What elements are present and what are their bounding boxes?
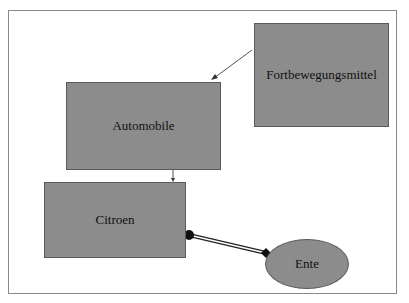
node-fortbewegungsmittel[interactable]: Fortbewegungsmittel — [254, 23, 389, 127]
node-automobile[interactable]: Automobile — [66, 82, 221, 170]
node-label: Automobile — [112, 118, 174, 134]
node-label: Citroen — [96, 212, 135, 228]
node-label: Fortbewegungsmittel — [266, 67, 377, 83]
node-citroen[interactable]: Citroen — [44, 182, 186, 258]
node-label: Ente — [295, 256, 319, 272]
node-ente[interactable]: Ente — [265, 239, 349, 289]
